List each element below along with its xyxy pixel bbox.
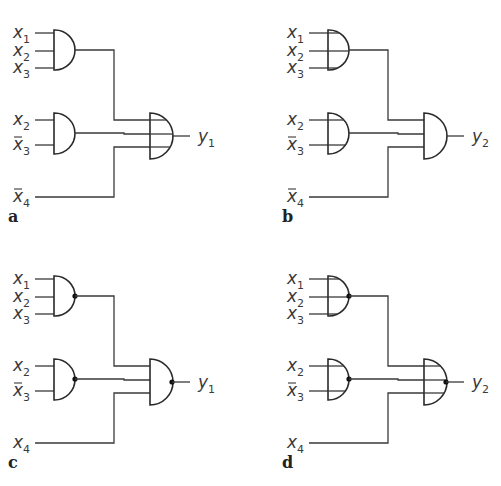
- output-gate-nand: [150, 359, 175, 405]
- input-label-g2-0: x2: [286, 355, 304, 379]
- variable-subscript: 2: [23, 120, 30, 133]
- variable-subscript: 2: [23, 297, 30, 310]
- variable-subscript: 4: [23, 197, 30, 210]
- variable-subscript: 2: [23, 51, 30, 64]
- gate-2-nor: [328, 359, 352, 400]
- wire-x4-to-output: [35, 393, 150, 443]
- wire-gate2-to-output: [75, 379, 150, 380]
- output-gate-and: [424, 113, 447, 159]
- variable-subscript: 1: [23, 279, 30, 292]
- gate-2-nand: [54, 359, 78, 400]
- variable-subscript: 2: [297, 120, 304, 133]
- variable-subscript: 4: [23, 443, 30, 456]
- gate-1-and: [54, 30, 75, 70]
- output-label: y1: [197, 126, 215, 150]
- wire-gate1-to-output: [75, 296, 150, 366]
- variable-subscript: 2: [297, 297, 304, 310]
- gate-body: [54, 113, 75, 154]
- panel-label: d: [282, 453, 293, 472]
- variable-subscript: 1: [208, 137, 215, 150]
- gate-body: [54, 359, 75, 400]
- gate-1-or: [328, 30, 349, 70]
- variable-subscript: 3: [297, 145, 304, 158]
- variable-subscript: 4: [297, 443, 304, 456]
- output-label: y2: [471, 372, 489, 396]
- output-label: y1: [197, 372, 215, 396]
- variable-subscript: 3: [297, 391, 304, 404]
- input-label-g2-1: x3: [12, 134, 30, 158]
- variable-subscript: 3: [23, 314, 30, 327]
- variable-subscript: 3: [23, 391, 30, 404]
- gate-2-and: [54, 113, 75, 154]
- input-label-g2-0: x2: [12, 355, 30, 379]
- variable-subscript: 3: [23, 145, 30, 158]
- variable-subscript: 3: [297, 314, 304, 327]
- gate-body: [54, 276, 75, 316]
- variable-subscript: 1: [23, 33, 30, 46]
- panel-label: c: [8, 453, 18, 472]
- logic-circuit-figure: x1x2x3x2x3x4y1ax1x2x3x2x3x4y2bx1x2x3x2x3…: [0, 0, 501, 486]
- variable-subscript: 2: [482, 137, 489, 150]
- gate-body: [328, 30, 349, 70]
- circuit-panel-a: x1x2x3x2x3x4y1a: [8, 22, 215, 226]
- input-label-g2-1: x3: [12, 380, 30, 404]
- variable-subscript: 3: [23, 68, 30, 81]
- panel-label: b: [282, 207, 293, 226]
- gate-body: [328, 113, 349, 154]
- gate-body: [328, 359, 349, 400]
- output-gate-nor: [424, 359, 449, 405]
- wire-x4-to-output: [309, 393, 424, 443]
- wire-gate2-to-output: [349, 133, 424, 134]
- wire-gate1-to-output: [75, 50, 150, 120]
- wire-gate1-to-output: [349, 296, 424, 366]
- variable-subscript: 1: [208, 383, 215, 396]
- variable-subscript: 2: [23, 366, 30, 379]
- panels-root: x1x2x3x2x3x4y1ax1x2x3x2x3x4y2bx1x2x3x2x3…: [8, 22, 489, 472]
- gate-2-or: [328, 113, 349, 154]
- input-label-g2-0: x2: [12, 109, 30, 133]
- wire-x4-to-output: [35, 147, 150, 197]
- variable-subscript: 3: [297, 68, 304, 81]
- variable-subscript: 2: [482, 383, 489, 396]
- input-label-g2-1: x3: [286, 380, 304, 404]
- output-gate-or: [150, 113, 173, 159]
- variable-subscript: 1: [297, 33, 304, 46]
- wire-gate1-to-output: [349, 50, 424, 120]
- output-label: y2: [471, 126, 489, 150]
- circuit-panel-d: x1x2x3x2x3x4y2d: [282, 268, 489, 472]
- variable-subscript: 1: [297, 279, 304, 292]
- variable-subscript: 2: [297, 51, 304, 64]
- circuit-panel-c: x1x2x3x2x3x4y1c: [8, 268, 215, 472]
- wire-gate2-to-output: [75, 133, 150, 134]
- input-label-g2-0: x2: [286, 109, 304, 133]
- circuit-panel-b: x1x2x3x2x3x4y2b: [282, 22, 489, 226]
- wire-gate2-to-output: [349, 379, 424, 380]
- gate-body: [54, 30, 75, 70]
- gate-body: [328, 276, 349, 316]
- variable-subscript: 4: [297, 197, 304, 210]
- gate-1-nand: [54, 276, 78, 316]
- gate-1-nor: [328, 276, 352, 316]
- wire-x4-to-output: [309, 147, 424, 197]
- panel-label: a: [8, 207, 18, 226]
- input-label-g2-1: x3: [286, 134, 304, 158]
- gate-body: [424, 113, 447, 159]
- variable-subscript: 2: [297, 366, 304, 379]
